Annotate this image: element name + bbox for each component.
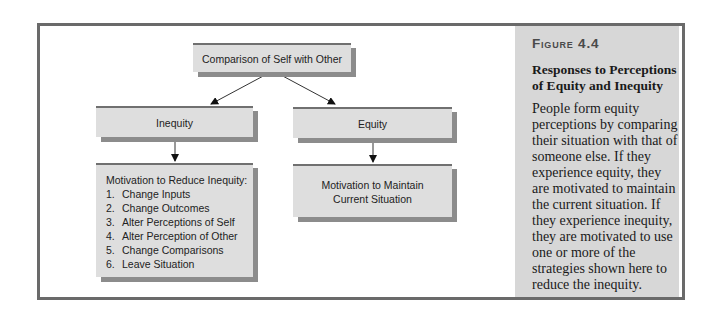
strategy-list: 1.Change Inputs 2.Change Outcomes 3.Alte… xyxy=(106,187,253,271)
maintain-line-2: Current Situation xyxy=(333,192,412,206)
reduce-inequity-heading: Motivation to Reduce Inequity: xyxy=(106,173,253,187)
inequity-label: Inequity xyxy=(156,117,193,129)
inequity-box: Inequity xyxy=(96,106,253,137)
comparison-label: Comparison of Self with Other xyxy=(202,53,342,65)
list-item: 6.Leave Situation xyxy=(106,257,253,271)
reduce-inequity-box: Motivation to Reduce Inequity: 1.Change … xyxy=(96,163,253,277)
maintain-line-1: Motivation to Maintain xyxy=(321,178,423,192)
list-item: 5.Change Comparisons xyxy=(106,243,253,257)
comparison-box: Comparison of Self with Other xyxy=(193,43,351,72)
arrow-to-inequity xyxy=(211,74,267,104)
list-item: 4.Alter Perception of Other xyxy=(106,229,253,243)
maintain-situation-box: Motivation to Maintain Current Situation xyxy=(293,164,452,217)
list-item: 1.Change Inputs xyxy=(106,187,253,201)
list-item: 3.Alter Perceptions of Self xyxy=(106,215,253,229)
equity-box: Equity xyxy=(293,107,452,138)
list-item: 2.Change Outcomes xyxy=(106,201,253,215)
arrow-to-equity xyxy=(279,74,335,104)
equity-label: Equity xyxy=(358,118,387,130)
